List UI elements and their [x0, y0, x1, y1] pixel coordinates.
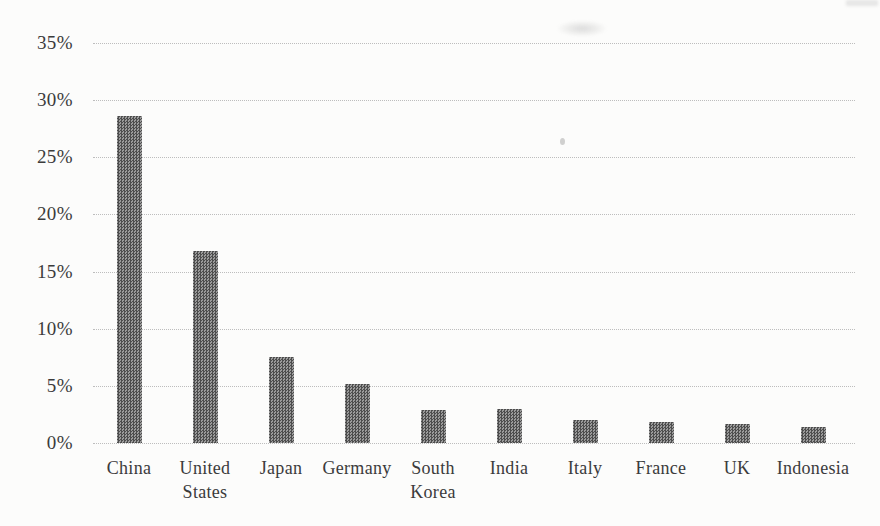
bar-united-states — [193, 251, 218, 443]
bar-south-korea — [421, 410, 446, 443]
x-axis-label-line: States — [159, 480, 251, 504]
y-axis-tick-label-0: 0% — [0, 433, 73, 453]
bar-india — [497, 409, 522, 443]
x-axis-label-line: Korea — [387, 480, 479, 504]
y-axis-tick-label-35: 35% — [0, 33, 73, 53]
bar-france — [649, 422, 674, 443]
bar-chart: 0%5%10%15%20%25%30%35%ChinaUnitedStatesJ… — [0, 0, 880, 526]
bar-indonesia — [801, 427, 826, 443]
bar-germany — [345, 384, 370, 443]
x-axis-label-line: Indonesia — [767, 456, 859, 480]
gridline-35 — [93, 43, 855, 44]
y-axis-tick-label-25: 25% — [0, 147, 73, 167]
bar-china — [117, 116, 142, 443]
gridline-30 — [93, 100, 855, 101]
gridline-0 — [93, 443, 855, 444]
gridline-20 — [93, 214, 855, 215]
gridline-25 — [93, 157, 855, 158]
y-axis-tick-label-15: 15% — [0, 262, 73, 282]
bar-italy — [573, 420, 598, 443]
x-axis-label-indonesia: Indonesia — [767, 456, 859, 480]
y-axis-tick-label-5: 5% — [0, 376, 73, 396]
y-axis-tick-label-30: 30% — [0, 90, 73, 110]
bar-uk — [725, 424, 750, 443]
bar-japan — [269, 357, 294, 443]
y-axis-tick-label-10: 10% — [0, 319, 73, 339]
y-axis-tick-label-20: 20% — [0, 204, 73, 224]
scanned-chart-page: { "chart_data": { "type": "bar", "title"… — [0, 0, 880, 526]
